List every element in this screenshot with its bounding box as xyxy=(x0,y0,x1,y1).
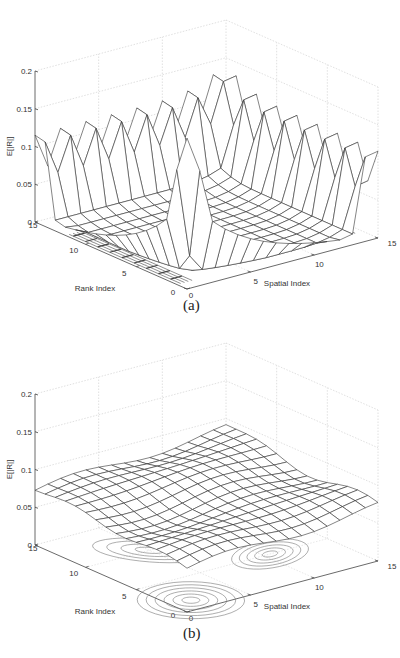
panel-b: 00.050.10.150.2051015051015Rank IndexSpa… xyxy=(0,329,400,658)
spatial-tick-label: 15 xyxy=(388,562,397,571)
spatial-axis-label: Spatial Index xyxy=(264,279,310,288)
surface-plot-a: 00.050.10.150.2051015051015Rank IndexSpa… xyxy=(0,0,400,329)
spatial-tick-label: 10 xyxy=(315,583,324,592)
rank-axis xyxy=(35,545,187,612)
spatial-tick-label: 5 xyxy=(253,277,258,286)
z-tick-label: 0.2 xyxy=(21,390,33,399)
z-tick-label: 0.2 xyxy=(21,67,33,76)
z-tick-label: 0.05 xyxy=(16,180,32,189)
surface-mesh-b xyxy=(35,425,378,569)
rank-axis-label: Rank Index xyxy=(75,607,115,616)
rank-tick-label: 5 xyxy=(122,269,127,278)
spatial-tick-label: 10 xyxy=(315,260,324,269)
spatial-tick-label: 15 xyxy=(388,239,397,248)
z-tick-label: 0.1 xyxy=(21,143,33,152)
z-tick-label: 0.1 xyxy=(21,466,33,475)
z-axis-label: E[|R|] xyxy=(5,460,14,480)
spatial-axis-label: Spatial Index xyxy=(264,602,310,611)
z-tick-label: 0.15 xyxy=(16,105,32,114)
surface-plot-b: 00.050.10.150.2051015051015Rank IndexSpa… xyxy=(0,329,400,658)
caption-b: (b) xyxy=(183,625,201,642)
z-tick-label: 0.15 xyxy=(16,428,32,437)
panel-a: 00.050.10.150.2051015051015Rank IndexSpa… xyxy=(0,0,400,329)
z-axis-label: E[|R|] xyxy=(5,137,14,157)
z-tick-label: 0.05 xyxy=(16,503,32,512)
rank-tick-label: 5 xyxy=(122,592,127,601)
spatial-tick-label: 5 xyxy=(253,600,258,609)
rank-tick-label: 10 xyxy=(69,569,78,578)
rank-tick-label: 15 xyxy=(29,544,38,553)
rank-tick-label: 15 xyxy=(29,221,38,230)
rank-axis-label: Rank Index xyxy=(75,284,115,293)
caption-a: (a) xyxy=(183,297,200,314)
rank-tick-label: 0 xyxy=(171,611,176,620)
rank-tick-label: 10 xyxy=(69,246,78,255)
rank-tick-label: 0 xyxy=(171,288,176,297)
